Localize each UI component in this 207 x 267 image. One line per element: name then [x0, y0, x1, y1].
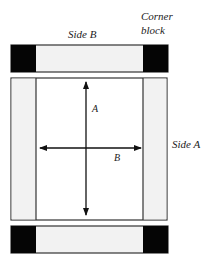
corner-block-top-left — [11, 45, 36, 72]
corner-block-bottom-left — [11, 226, 36, 253]
frame-diagram — [0, 0, 207, 267]
arrow-b-label: B — [114, 152, 120, 163]
side-a-label: Side A — [172, 139, 200, 150]
side-b-label: Side B — [68, 29, 96, 40]
bottom-side-b-bar — [11, 226, 168, 253]
arrow-a-label: A — [92, 103, 98, 114]
middle-side-a-frame — [11, 78, 167, 220]
side-a-left-panel — [12, 79, 36, 220]
top-side-b-bar — [11, 45, 168, 72]
corner-label-line2: block — [141, 25, 165, 36]
side-a-right-panel — [143, 79, 166, 220]
corner-block-bottom-right — [143, 226, 168, 253]
corner-label-line1: Corner — [141, 11, 173, 22]
corner-block-top-right — [143, 45, 168, 72]
